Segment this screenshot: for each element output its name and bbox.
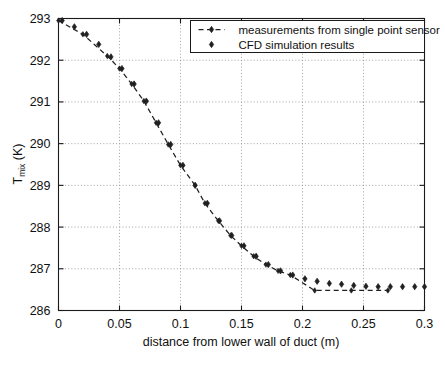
chart-legend[interactable]: measurements from single point sensorCFD… bbox=[191, 21, 441, 53]
y-tick-label: 292 bbox=[30, 54, 51, 68]
legend-label: measurements from single point sensor bbox=[239, 24, 441, 36]
y-tick-label: 291 bbox=[30, 95, 51, 109]
x-tick-label: 0 bbox=[55, 317, 62, 331]
x-tick-label: 0.3 bbox=[416, 317, 433, 331]
x-tick-label: 0.05 bbox=[107, 317, 131, 331]
y-tick-label: 288 bbox=[30, 221, 51, 235]
y-tick-label: 290 bbox=[30, 137, 51, 151]
chart-canvas: 00.050.10.150.20.250.3286287288289290291… bbox=[0, 0, 445, 365]
legend-label: CFD simulation results bbox=[239, 39, 355, 51]
y-tick-label: 293 bbox=[30, 12, 51, 26]
y-tick-label: 289 bbox=[30, 179, 51, 193]
x-tick-label: 0.1 bbox=[172, 317, 189, 331]
x-axis-title: distance from lower wall of duct (m) bbox=[143, 335, 340, 349]
svg-text:distance from lower wall of du: distance from lower wall of duct (m) bbox=[143, 335, 340, 349]
x-tick-label: 0.25 bbox=[351, 317, 375, 331]
x-tick-label: 0.15 bbox=[229, 317, 253, 331]
x-tick-label: 0.2 bbox=[294, 317, 311, 331]
y-tick-label: 286 bbox=[30, 304, 51, 318]
chart-figure: 00.050.10.150.20.250.3286287288289290291… bbox=[0, 0, 445, 365]
y-axis-title: Tmix (K) bbox=[11, 143, 27, 184]
svg-text:Tmix (K): Tmix (K) bbox=[11, 143, 27, 184]
y-tick-label: 287 bbox=[30, 262, 51, 276]
